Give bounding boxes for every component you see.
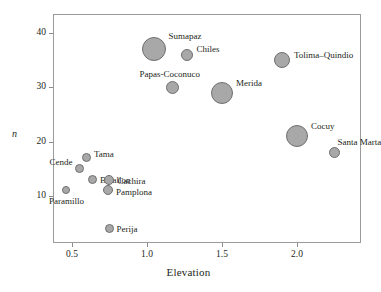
data-point-label: Perija [116, 225, 137, 234]
x-tick-mark [297, 243, 298, 247]
y-axis-title: n [12, 128, 17, 139]
data-point-label: Cocuy [311, 122, 335, 131]
x-tick-label: 0.5 [52, 249, 92, 259]
data-point-bubble [211, 82, 233, 104]
data-point-bubble [274, 52, 290, 68]
x-tick-label: 1.5 [202, 249, 242, 259]
y-tick-label: 10 [20, 190, 46, 200]
data-point-label: Chiles [196, 45, 219, 54]
data-point-bubble [105, 224, 114, 233]
data-point-label: Paramillo [49, 197, 84, 206]
data-point-label: Tolima–Quindio [294, 51, 353, 60]
x-tick-mark [222, 243, 223, 247]
y-tick-mark [49, 33, 53, 34]
data-point-label: Pamplona [116, 188, 152, 197]
data-point-label: Papas-Coconuco [139, 70, 200, 79]
y-tick-label: 40 [20, 27, 46, 37]
data-point-label: Cachira [117, 177, 145, 186]
data-point-bubble [329, 147, 340, 158]
x-axis-title: Elevation [0, 266, 377, 278]
x-tick-label: 2.0 [277, 249, 317, 259]
y-tick-mark [49, 87, 53, 88]
data-point-bubble [104, 175, 114, 185]
y-tick-label: 20 [20, 136, 46, 146]
data-point-label: Santa Marta [338, 138, 381, 147]
y-tick-mark [49, 142, 53, 143]
y-tick-label: 30 [20, 81, 46, 91]
data-point-bubble [286, 125, 308, 147]
x-tick-label: 1.0 [127, 249, 167, 259]
x-tick-mark [72, 243, 73, 247]
data-point-label: Tama [94, 150, 114, 159]
data-point-label: Sumapaz [168, 32, 201, 41]
data-point-bubble [166, 81, 179, 94]
data-point-label: Merida [236, 79, 262, 88]
x-tick-mark [147, 243, 148, 247]
data-point-label: Cende [49, 158, 72, 167]
